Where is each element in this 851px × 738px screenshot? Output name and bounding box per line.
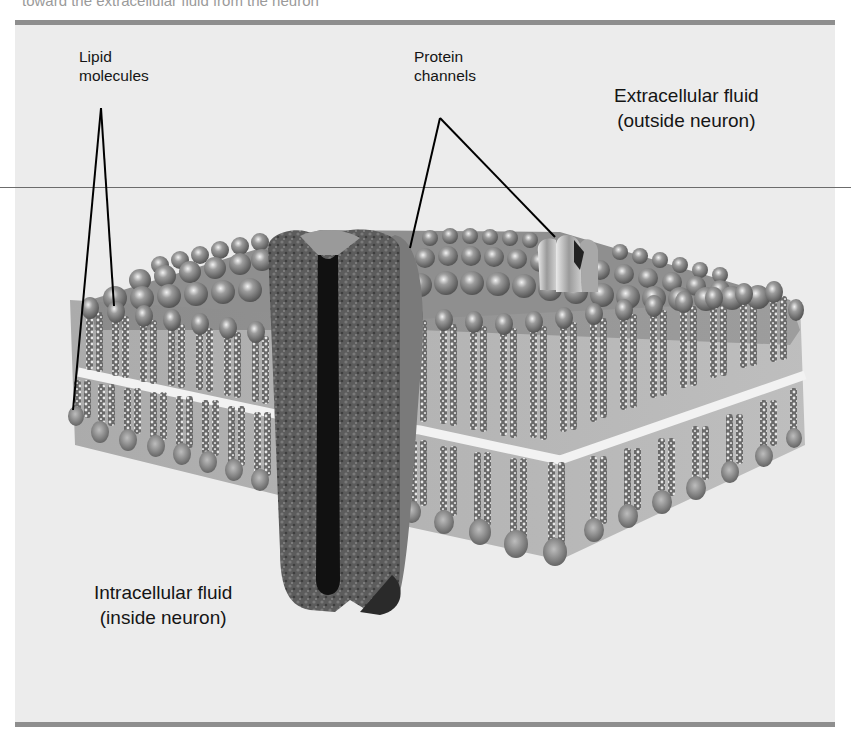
label-extracellular-line2: (outside neuron): [614, 108, 759, 133]
label-intracellular-line2: (inside neuron): [94, 605, 232, 630]
label-lipid-line1: Lipid: [79, 47, 149, 66]
label-extracellular-line1: Extracellular fluid: [614, 83, 759, 108]
label-intracellular-line1: Intracellular fluid: [94, 580, 232, 605]
label-lipid-line2: molecules: [79, 66, 149, 85]
large-protein-channel: [268, 229, 423, 615]
label-protein-line1: Protein: [414, 47, 476, 66]
horizontal-scan-line: [0, 187, 851, 188]
label-protein-line2: channels: [414, 66, 476, 85]
label-lipid-molecules: Lipid molecules: [79, 47, 149, 85]
label-intracellular-fluid: Intracellular fluid (inside neuron): [94, 580, 232, 630]
label-extracellular-fluid: Extracellular fluid (outside neuron): [614, 83, 759, 133]
small-protein-channel: [538, 235, 598, 292]
label-protein-channels: Protein channels: [414, 47, 476, 85]
